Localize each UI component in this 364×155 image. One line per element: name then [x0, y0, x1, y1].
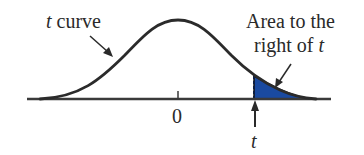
t-curve-label-word: curve: [57, 10, 101, 32]
area-label-line2-text: right of: [254, 34, 313, 56]
zero-tick-label: 0: [172, 106, 182, 126]
t-marker-arrow-head-icon: [251, 100, 259, 111]
area-pointer-shaft: [279, 64, 291, 82]
area-pointer-head-icon: [275, 78, 283, 88]
area-label-line2-var: t: [318, 34, 324, 56]
area-label-line2: right of t: [254, 35, 324, 55]
t-marker-label: t: [251, 131, 257, 151]
area-label-line1: Area to the: [246, 11, 335, 31]
t-curve-pointer-shaft: [90, 36, 108, 52]
t-curve-label: t curve: [46, 11, 101, 31]
t-curve-label-var: t: [46, 10, 52, 32]
